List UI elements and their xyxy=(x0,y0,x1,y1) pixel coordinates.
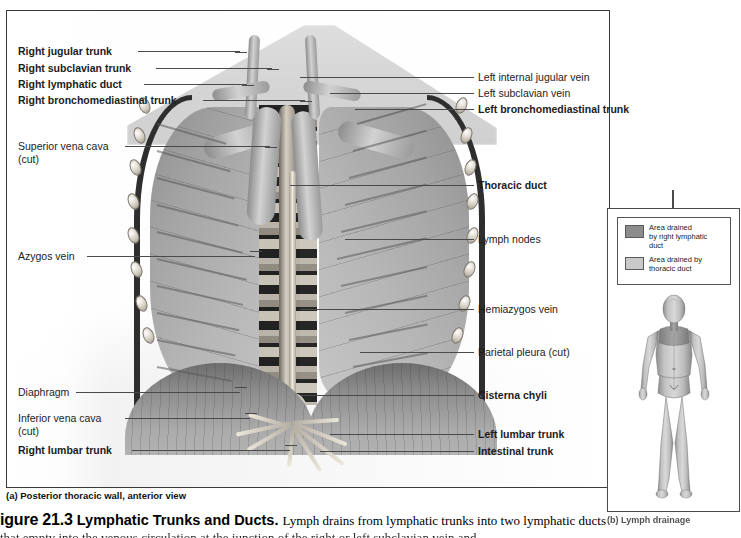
label-right-1: Left subclavian vein xyxy=(478,87,570,100)
leader-line-left-4 xyxy=(125,146,270,147)
leader-line-right-7 xyxy=(300,395,474,396)
label-right-5: Hemiazygos vein xyxy=(478,303,558,316)
label-left-2: Right lymphatic duct xyxy=(18,78,122,91)
leader-line-right-8 xyxy=(330,434,474,435)
panel-a-caption: (a) Posterior thoracic wall, anterior vi… xyxy=(6,490,186,501)
leader-line-inner-left-4 xyxy=(265,147,277,148)
leader-line-left-7 xyxy=(125,418,250,419)
leader-line-right-9 xyxy=(320,451,474,452)
leader-line-left-3 xyxy=(203,100,305,101)
leader-line-inner-left-2 xyxy=(242,85,254,86)
figure-body-text: Lymph drains from lymphatic trunks into … xyxy=(282,513,606,528)
figure-caption: igure 21.3 Lymphatic Trunks and Ducts. L… xyxy=(0,511,620,529)
label-right-7: Cisterna chyli xyxy=(478,389,547,402)
legend-row-right-lymphatic-duct: Area drained by right lymphatic duct xyxy=(625,224,707,250)
label-left-5: Azygos vein xyxy=(18,250,75,263)
label-left-0: Right jugular trunk xyxy=(18,45,112,58)
label-right-2: Left bronchomediastinal trunk xyxy=(478,103,629,116)
figure-title: Lymphatic Trunks and Ducts. xyxy=(77,512,279,528)
leader-line-inner-left-7 xyxy=(245,413,257,414)
label-left-6: Diaphragm xyxy=(18,386,69,399)
label-right-3: Thoracic duct xyxy=(478,179,547,192)
leader-line-inner-left-6 xyxy=(235,387,247,388)
label-right-8: Left lumbar trunk xyxy=(478,428,564,441)
leader-line-inner-left-5 xyxy=(250,251,262,252)
leader-line-right-4 xyxy=(345,239,474,240)
panel-b-lymph-drainage: Area drained by right lymphatic duct Are… xyxy=(607,208,740,512)
label-right-4: Lymph nodes xyxy=(478,233,541,246)
human-body-diagram xyxy=(630,293,718,499)
leader-line-inner-left-1 xyxy=(267,69,279,70)
leader-line-left-2 xyxy=(144,84,247,85)
inset-connector-line xyxy=(672,190,674,209)
label-left-8: Right lumbar trunk xyxy=(18,444,112,457)
leader-line-left-5 xyxy=(87,256,256,257)
leader-line-right-2 xyxy=(355,109,474,110)
leader-line-right-0 xyxy=(300,77,474,78)
leader-line-right-3 xyxy=(290,185,474,186)
legend-label-thoracic-duct: Area drained by thoracic duct xyxy=(649,256,702,274)
leader-line-inner-left-3 xyxy=(300,101,312,102)
legend-swatch-right-lymphatic-duct xyxy=(625,225,644,238)
leader-line-left-6 xyxy=(76,392,241,393)
leader-line-right-1 xyxy=(330,93,474,94)
label-left-3: Right bronchomediastinal trunk xyxy=(18,94,177,107)
leader-line-right-6 xyxy=(360,352,474,353)
leader-line-left-8 xyxy=(132,450,290,451)
legend-box: Area drained by right lymphatic duct Are… xyxy=(617,217,731,285)
label-right-6: Parietal pleura (cut) xyxy=(478,346,570,359)
label-left-7: Inferior vena cava (cut) xyxy=(18,412,101,437)
legend-label-right-lymphatic-duct: Area drained by right lymphatic duct xyxy=(649,224,707,250)
leader-line-left-1 xyxy=(156,68,272,69)
label-right-0: Left internal jugular vein xyxy=(478,71,590,84)
label-right-9: Intestinal trunk xyxy=(478,445,553,458)
leader-line-inner-left-0 xyxy=(235,52,247,53)
label-left-1: Right subclavian trunk xyxy=(18,62,131,75)
leader-line-inner-left-8 xyxy=(285,445,297,446)
leader-line-right-5 xyxy=(300,309,474,310)
figure-number: igure 21.3 xyxy=(0,511,73,528)
legend-row-thoracic-duct: Area drained by thoracic duct xyxy=(625,256,702,274)
legend-swatch-thoracic-duct xyxy=(625,257,644,270)
label-left-4: Superior vena cava (cut) xyxy=(18,140,108,165)
leader-line-left-0 xyxy=(138,51,240,52)
figure-caption-line2: that empty into the venous circulation a… xyxy=(0,530,620,538)
